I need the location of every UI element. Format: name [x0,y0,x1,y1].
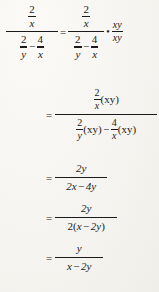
step5-numerator: y [76,243,83,256]
fraction-4-over-x: 4 x [37,34,45,59]
denominator-term-b: 2y [91,221,101,232]
denominator-value: x [91,49,98,60]
equals-sign: = [44,252,54,264]
minus-operator: − [77,181,86,192]
right-cf-numerator: 2 x [81,4,91,30]
derivation-step-4: = 2y 2 ( x − 2y ) [44,203,117,232]
close-paren: ) [101,221,105,232]
factor-xy: (xy) [101,94,119,105]
numerator-value: 2 [28,4,36,15]
left-cf-denominator: 2 y − 4 x [19,33,45,59]
fraction-2-over-y: 2 y [76,118,83,141]
denominator-term-a: 2x [66,181,76,192]
main-fraction-bar [55,177,107,178]
minus-operator: − [82,221,91,232]
denominator-term-1: 2 y (xy) [76,118,101,141]
main-fraction-bar [55,257,103,258]
fraction-2-over-x: 2 x [94,88,101,111]
step3-numerator: 2y [75,163,87,176]
denominator-value: x [29,18,36,29]
denominator-term-b: 4y [86,181,96,192]
denominator-value: x [37,49,44,60]
fraction-2-over-x: 2 x [82,4,90,29]
step5-fraction: y x − 2y [55,243,103,272]
numerator-value: 2 [20,34,28,45]
right-complex-fraction: 2 x 2 y − 4 x [68,4,104,60]
main-fraction-bar [55,114,157,115]
denominator-term-b: 2y [81,261,91,272]
numerator-value: 4 [111,118,118,128]
step3-denominator: 2x − 4y [65,179,97,192]
derivation-step-2: = 2 x (xy) 2 y (xy) [44,88,157,141]
fraction-4-over-x: 4 x [91,34,99,59]
denominator-value: y [74,49,81,60]
factor-xy: (xy) [83,124,101,135]
derivation-step-5: = y x − 2y [44,243,103,272]
numerator-value: 2 [82,4,90,15]
denominator-value: y [20,49,27,60]
fraction-4-over-x: 4 x [111,118,118,141]
numerator-value: 2 [74,34,82,45]
step4-denominator: 2 ( x − 2y ) [67,219,106,232]
numerator-value: 4 [91,34,99,45]
minus-operator: − [27,41,36,52]
fraction-2-over-y: 2 y [74,34,82,59]
main-fraction-bar [6,31,58,32]
equals-sign: = [58,26,68,38]
left-complex-fraction: 2 x 2 y − 4 x [6,4,58,60]
step4-fraction: 2y 2 ( x − 2y ) [55,203,117,232]
numerator-value: 2 [94,88,101,98]
fraction-2-over-x: 2 x [28,4,36,29]
minus-operator: − [102,124,111,135]
main-fraction-bar [55,217,117,218]
left-cf-numerator: 2 x [27,4,37,30]
step5-denominator: x − 2y [66,259,93,272]
denominator-value: x [83,18,90,29]
multiplier-fraction-xy-over-xy: xy xy [112,20,123,43]
numerator-value: xy [112,20,123,30]
fraction-2-over-y: 2 y [20,34,28,59]
denominator-value: x [111,131,117,141]
step2-fraction: 2 x (xy) 2 y (xy) − [55,88,157,141]
factor-xy: (xy) [118,124,136,135]
equals-sign: = [44,109,54,121]
numerator-value: 2 [76,118,83,128]
step2-denominator: 2 y (xy) − 4 x (xy) [75,116,137,141]
numerator-value: 4 [37,34,45,45]
minus-operator: − [72,261,81,272]
denominator-value: x [94,101,100,111]
minus-operator: − [82,41,91,52]
denominator-value: y [77,131,83,141]
right-cf-denominator: 2 y − 4 x [73,33,99,59]
math-derivation-page: 2 x 2 y − 4 x = [0,0,159,292]
denominator-value: xy [112,33,123,43]
main-fraction-bar [68,31,104,32]
step3-fraction: 2y 2x − 4y [55,163,107,192]
equals-sign: = [44,172,54,184]
step4-numerator: 2y [80,203,92,216]
equals-sign: = [44,212,54,224]
step2-numerator: 2 x (xy) [93,88,120,113]
multiplication-dot: • [104,27,112,37]
denominator-term-2: 4 x (xy) [111,118,136,141]
derivation-step-1: 2 x 2 y − 4 x = [6,4,123,60]
derivation-step-3: = 2y 2x − 4y [44,163,107,192]
